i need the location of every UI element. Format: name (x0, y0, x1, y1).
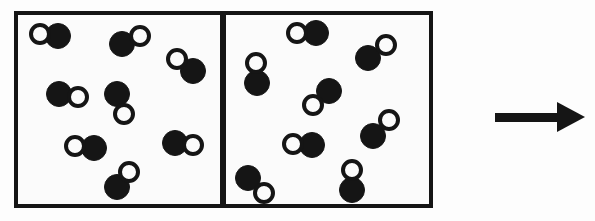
atom-open-l1 (29, 23, 51, 45)
molecular-diagram-figure (0, 0, 595, 221)
atom-open-l4 (67, 86, 89, 108)
atom-open-r3 (375, 34, 397, 56)
arrow-head (557, 102, 585, 132)
atom-open-r1 (286, 22, 308, 44)
atom-open-l2 (129, 25, 151, 47)
atom-open-l5 (113, 103, 135, 125)
atom-open-r8 (253, 182, 275, 204)
atom-open-r7 (341, 159, 363, 181)
atom-open-l3 (166, 48, 188, 70)
arrow-shaft (495, 113, 561, 122)
atom-open-r2 (245, 52, 267, 74)
atom-open-r6 (282, 133, 304, 155)
atom-open-r4 (302, 94, 324, 116)
atom-open-r5 (378, 109, 400, 131)
atom-open-l7 (182, 134, 204, 156)
atom-open-l6 (64, 135, 86, 157)
atom-open-l8 (118, 161, 140, 183)
